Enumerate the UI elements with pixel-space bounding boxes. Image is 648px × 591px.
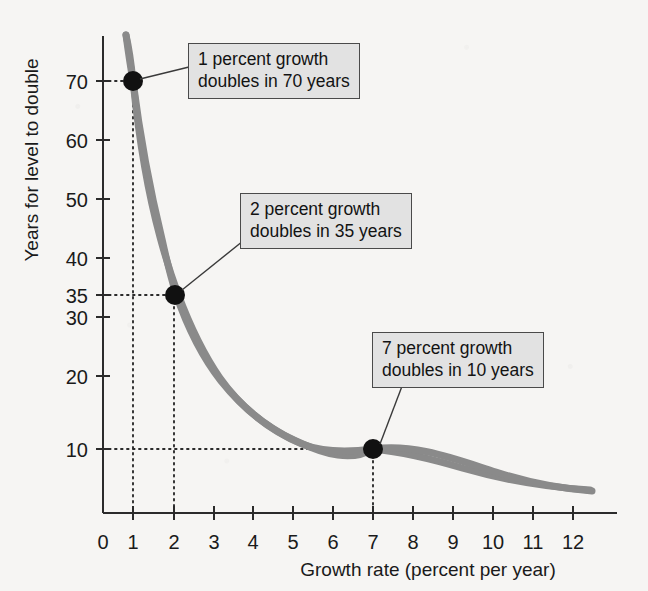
x-tick-labels: 0 1 2 3 4 5 6 7 8 9 10 11 12 [97, 531, 584, 553]
x-tick-label: 3 [208, 531, 219, 553]
x-tick-label: 1 [127, 531, 138, 553]
leader-line-1pct [140, 67, 189, 79]
growth-curve-main [126, 35, 592, 491]
callout-7pct-line2: doubles in 10 years [382, 360, 534, 382]
y-tick-label: 40 [66, 248, 88, 270]
x-axis [103, 506, 617, 520]
callout-2pct-line2: doubles in 35 years [250, 221, 402, 243]
callout-leader-lines [140, 67, 404, 444]
callout-7pct-line1: 7 percent growth [382, 338, 512, 358]
leader-line-7pct [380, 381, 404, 444]
y-tick-label: 60 [66, 130, 88, 152]
y-axis [96, 36, 110, 513]
x-tick-label: 7 [367, 531, 378, 553]
x-tick-label: 2 [168, 531, 179, 553]
data-point-7pct[interactable] [363, 439, 383, 459]
callout-1pct: 1 percent growth doubles in 70 years [188, 43, 360, 99]
data-point-markers [123, 71, 383, 459]
x-tick-label: 9 [447, 531, 458, 553]
callout-2pct-line1: 2 percent growth [250, 199, 380, 219]
y-tick-label: 70 [66, 71, 88, 93]
x-tick-label: 11 [523, 531, 544, 553]
callout-1pct-line2: doubles in 70 years [198, 71, 350, 93]
leader-line-2pct [182, 241, 243, 290]
callout-1pct-line1: 1 percent growth [198, 49, 328, 69]
x-tick-label: 6 [327, 531, 338, 553]
data-point-2pct[interactable] [165, 285, 185, 305]
x-tick-label: 0 [97, 531, 108, 553]
y-tick-labels: 70 60 50 40 35 30 20 10 [66, 71, 88, 461]
y-axis-title: Years for level to double [21, 58, 42, 261]
growth-curve [126, 35, 590, 490]
data-point-1pct[interactable] [123, 71, 143, 91]
y-tick-label: 10 [66, 439, 88, 461]
x-tick-label: 8 [407, 531, 418, 553]
x-tick-label: 10 [482, 531, 504, 553]
x-tick-label: 12 [562, 531, 584, 553]
x-tick-label: 4 [247, 531, 258, 553]
callout-2pct: 2 percent growth doubles in 35 years [240, 193, 412, 249]
y-tick-label: 20 [66, 366, 88, 388]
callout-7pct: 7 percent growth doubles in 10 years [372, 332, 544, 388]
y-tick-label: 30 [66, 307, 88, 329]
chart-figure: 70 60 50 40 35 30 20 10 0 1 2 3 4 5 6 7 … [0, 0, 648, 591]
x-axis-title: Growth rate (percent per year) [300, 559, 556, 580]
y-tick-label: 35 [66, 285, 88, 307]
y-tick-label: 50 [66, 189, 88, 211]
x-tick-label: 5 [287, 531, 298, 553]
